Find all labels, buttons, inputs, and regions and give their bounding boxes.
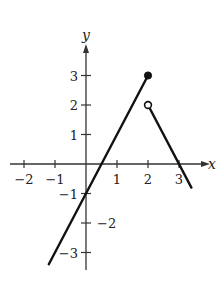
segment-2 <box>148 105 191 188</box>
segment-1 <box>49 76 148 265</box>
x-tick-label: −1 <box>45 172 64 187</box>
x-tick-label: −2 <box>14 172 33 187</box>
y-tick-label: 2 <box>70 98 78 113</box>
x-tick-label: 1 <box>113 172 121 187</box>
y-axis-arrow-icon <box>83 44 89 53</box>
x-tick-label: 3 <box>175 172 183 187</box>
y-tick-label: −1 <box>59 187 78 202</box>
axes <box>10 44 210 270</box>
y-tick-label: −2 <box>97 216 116 231</box>
closed-endpoint-icon <box>144 72 151 79</box>
x-tick-label: 2 <box>144 172 152 187</box>
piecewise-function-graph: −2−1123321−1−2−3 x y <box>0 0 222 281</box>
y-tick-label: −3 <box>59 246 78 261</box>
y-tick-label: 1 <box>70 128 78 143</box>
y-axis-label: y <box>81 27 91 43</box>
x-axis-label: x <box>208 156 216 172</box>
y-tick-label: 3 <box>70 69 78 84</box>
endpoint-markers <box>144 72 151 109</box>
open-endpoint-icon <box>145 102 152 109</box>
